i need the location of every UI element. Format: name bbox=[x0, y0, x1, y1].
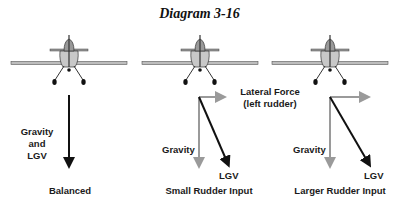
caption-small-rudder: Small Rudder Input bbox=[163, 185, 255, 197]
aircraft-larger-rudder bbox=[272, 35, 388, 85]
label-line: and bbox=[14, 138, 60, 150]
lgv-arrow-large bbox=[330, 97, 369, 164]
caption-balanced: Balanced bbox=[40, 185, 100, 197]
diagram-canvas bbox=[0, 0, 399, 207]
aircraft-balanced bbox=[11, 35, 127, 85]
label-line: LGV bbox=[14, 150, 60, 162]
label-line: Gravity bbox=[14, 126, 60, 138]
label-line: (left rudder) bbox=[232, 98, 308, 110]
lateral-force-label: Lateral Force (left rudder) bbox=[232, 86, 308, 110]
lgv-arrow-small bbox=[199, 97, 228, 164]
aircraft-small-rudder bbox=[142, 35, 258, 85]
gravity-label-large: Gravity bbox=[293, 144, 326, 156]
lgv-label-small: LGV bbox=[219, 170, 239, 182]
label-line: Lateral Force bbox=[232, 86, 308, 98]
caption-larger-rudder: Larger Rudder Input bbox=[290, 185, 390, 197]
gravity-label-small: Gravity bbox=[162, 144, 195, 156]
lgv-label-large: LGV bbox=[364, 170, 384, 182]
gravity-lgv-label: Gravity and LGV bbox=[14, 126, 60, 162]
